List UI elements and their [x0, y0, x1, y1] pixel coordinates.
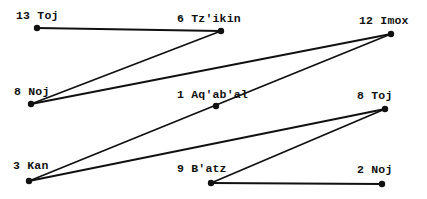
node-label-9-batz: 9 B'atz [177, 163, 227, 175]
node-dot-icon [388, 31, 394, 37]
node-label-12-imox: 12 Imox [359, 15, 409, 27]
node-dot-icon [34, 25, 40, 31]
node-dot-icon [379, 181, 385, 187]
connector-line [211, 183, 382, 184]
node-dot-icon [218, 28, 224, 34]
node-label-8-noj: 8 Noj [14, 86, 50, 98]
connector-line [29, 34, 391, 181]
node-dot-icon [213, 103, 219, 109]
node-label-8-toj: 8 Toj [357, 90, 393, 102]
day-sequence-diagram: 13 Toj 6 Tz'ikin 12 Imox 8 Noj 1 Aq'ab'a… [0, 0, 427, 199]
node-dot-icon [28, 101, 34, 107]
node-label-1-aqabal: 1 Aq'ab'al [177, 89, 248, 101]
node-dot-icon [208, 180, 214, 186]
node-label-13-toj: 13 Toj [16, 10, 59, 22]
node-dot-icon [382, 106, 388, 112]
node-label-2-noj: 2 Noj [357, 164, 393, 176]
connector-line [37, 28, 221, 31]
node-label-3-kan: 3 Kan [13, 160, 49, 172]
node-dot-icon [26, 178, 32, 184]
node-label-6-tzikin: 6 Tz'ikin [177, 13, 241, 25]
